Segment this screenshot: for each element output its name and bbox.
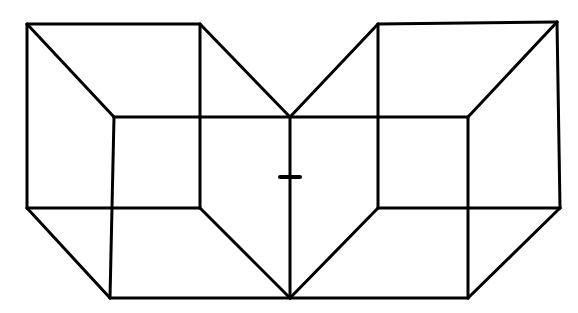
edge-15 (468, 22, 557, 117)
edge-10 (200, 208, 290, 298)
edge-19 (290, 208, 378, 298)
edge-12 (290, 24, 378, 117)
edge-2 (27, 24, 114, 117)
edge-16 (557, 22, 560, 208)
edge-4 (200, 24, 290, 117)
edge-13 (378, 22, 557, 24)
line-drawing (0, 0, 578, 313)
edge-9 (27, 208, 110, 298)
reversible-boxes-figure (0, 0, 578, 313)
edge-20 (468, 208, 560, 298)
figure-edges (27, 22, 560, 298)
